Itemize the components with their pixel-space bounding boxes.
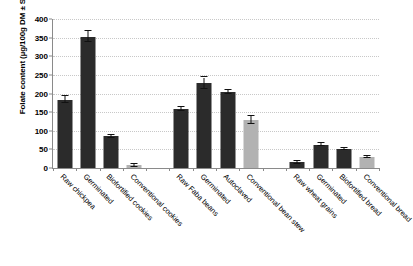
x-tick-mark [53, 168, 54, 171]
bar-slot [239, 19, 262, 168]
y-tick-label: 200 [18, 89, 48, 98]
y-tick-label: 150 [18, 108, 48, 117]
error-bar-cap-top [224, 89, 231, 90]
error-bar-cap-top [294, 160, 301, 161]
error-bar-cap-top [247, 115, 254, 116]
bar[interactable] [57, 100, 72, 168]
y-tick-label: 250 [18, 70, 48, 79]
bar[interactable] [243, 120, 258, 168]
plot-area [52, 19, 379, 169]
y-tick-label: 300 [18, 52, 48, 61]
error-bar-cap-top [108, 134, 115, 135]
x-axis-tick-labels: Raw chickpeaGerminatedBiofortified cooki… [52, 172, 378, 266]
bar-slot [76, 19, 99, 168]
y-tick-label: 0 [18, 164, 48, 173]
error-bar-cap-top [84, 30, 91, 31]
bar[interactable] [337, 149, 352, 168]
x-tick-mark [332, 168, 333, 171]
y-axis-tick-labels: 050100150200250300350400 [18, 19, 48, 168]
x-tick-mark [100, 168, 101, 171]
bar-slot [123, 19, 146, 168]
bar-slot [100, 19, 123, 168]
error-bar-cap-top [201, 76, 208, 77]
x-tick-mark [146, 168, 147, 171]
error-bar-cap-bottom [317, 145, 324, 146]
x-tick-mark [379, 168, 380, 171]
error-bar-cap-top [178, 106, 185, 107]
error-bar-cap-bottom [364, 157, 371, 158]
x-tick-mark [169, 168, 170, 171]
bar[interactable] [197, 83, 212, 168]
error-bar-cap-top [317, 142, 324, 143]
error-bar-cap-bottom [178, 110, 185, 111]
bar-slot [332, 19, 355, 168]
error-bar-cap-top [341, 147, 348, 148]
x-tick-mark [216, 168, 217, 171]
x-tick-mark [356, 168, 357, 171]
error-bar-cap-top [61, 95, 68, 96]
error-bar-cap-bottom [61, 102, 68, 103]
bar[interactable] [104, 136, 119, 168]
y-tick-label: 400 [18, 15, 48, 24]
bar-slot [193, 19, 216, 168]
error-bar-cap-bottom [201, 88, 208, 89]
error-bar-cap-bottom [131, 166, 138, 167]
x-tick-mark [193, 168, 194, 171]
y-tick-label: 50 [18, 145, 48, 154]
x-tick-mark [123, 168, 124, 171]
bar[interactable] [360, 157, 375, 168]
error-bar-cap-bottom [224, 93, 231, 94]
bar-slot [53, 19, 76, 168]
error-bar-cap-top [364, 155, 371, 156]
x-tick-mark [239, 168, 240, 171]
y-tick-label: 350 [18, 33, 48, 42]
x-tick-label: Raw Faba beans [175, 172, 221, 218]
error-bar-cap-top [131, 163, 138, 164]
x-tick-mark [76, 168, 77, 171]
bar-slot [169, 19, 192, 168]
x-tick-mark [286, 168, 287, 171]
bars-layer [53, 19, 379, 168]
error-bar-cap-bottom [294, 163, 301, 164]
bar[interactable] [174, 109, 189, 168]
bar-slot [356, 19, 379, 168]
bar[interactable] [313, 145, 328, 168]
bar-slot [286, 19, 309, 168]
bar[interactable] [80, 37, 95, 168]
error-bar-cap-bottom [84, 41, 91, 42]
error-bar-cap-bottom [341, 149, 348, 150]
y-tick-label: 100 [18, 126, 48, 135]
x-tick-mark [263, 168, 264, 171]
bar-slot [309, 19, 332, 168]
bar[interactable] [220, 92, 235, 168]
error-bar-cap-bottom [108, 137, 115, 138]
bar-slot [216, 19, 239, 168]
error-bar-cap-bottom [247, 123, 254, 124]
x-tick-mark [309, 168, 310, 171]
